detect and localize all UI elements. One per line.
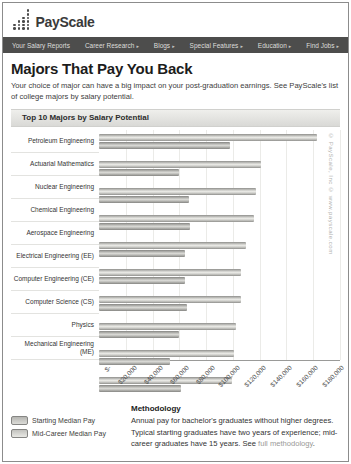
mid-career-pay-bar — [99, 161, 261, 168]
logo-dot — [27, 24, 30, 27]
category-label: Computer Engineering (CE) — [11, 268, 99, 291]
starting-pay-bar — [99, 304, 187, 311]
mid-career-pay-bar — [99, 188, 256, 195]
payscale-logo[interactable]: PayScale — [13, 10, 94, 30]
page-intro: Your choice of major can have a big impa… — [11, 81, 345, 102]
category-label: Electrical Engineering (EE) — [11, 245, 99, 268]
category-label: Chemical Engineering — [11, 199, 99, 222]
bar-row — [99, 296, 340, 319]
logo-dot — [18, 20, 21, 23]
copyright-watermark: © PayScale, Inc © www.payscale.com — [328, 133, 334, 255]
bar-row — [99, 188, 340, 211]
page-title: Majors That Pay You Back — [11, 60, 340, 77]
methodology-text: Annual pay for bachelor's graduates with… — [131, 415, 340, 449]
mid-career-pay-bar — [99, 134, 317, 141]
bar-row — [99, 323, 340, 346]
logo-dot — [27, 17, 30, 20]
payscale-logo-text: PayScale — [35, 14, 94, 30]
methodology-title: Methodology — [131, 404, 340, 413]
logo-dot-column — [13, 24, 16, 30]
logo-dot-column — [22, 17, 25, 30]
chevron-right-icon: ▸ — [240, 43, 243, 49]
category-label: Petroleum Engineering — [11, 130, 99, 153]
bar-row — [99, 134, 340, 157]
logo-dot — [27, 27, 30, 30]
mid-career-pay-bar — [99, 215, 254, 222]
bar-row — [99, 269, 340, 292]
nav-item-special-features[interactable]: Special Features▸ — [190, 42, 243, 49]
gridline — [340, 130, 341, 360]
salary-bar-chart: Petroleum EngineeringActuarial Mathemati… — [11, 130, 340, 361]
logo-dot — [22, 27, 25, 30]
mid-career-pay-bar — [99, 296, 241, 303]
legend-item: Mid-Career Median Pay — [11, 429, 121, 438]
methodology-period: . — [313, 439, 315, 448]
legend-item: Starting Median Pay — [11, 416, 121, 425]
starting-pay-bar — [99, 142, 230, 149]
category-label: Computer Science (CS) — [11, 291, 99, 314]
starting-pay-bar — [99, 196, 189, 203]
category-label: Actuarial Mathematics — [11, 153, 99, 176]
mid-career-pay-bar — [99, 269, 241, 276]
logo-dot — [13, 24, 16, 27]
mid-career-pay-bar — [99, 323, 236, 330]
chevron-right-icon: ▸ — [172, 43, 175, 49]
bar-row — [99, 161, 340, 184]
nav-item-blogs[interactable]: Blogs▸ — [154, 42, 175, 49]
payscale-logo-dots-icon — [13, 10, 29, 30]
legend-label: Starting Median Pay — [32, 417, 95, 424]
nav-item-career-research[interactable]: Career Research▸ — [85, 42, 139, 49]
starting-pay-bar — [99, 277, 185, 284]
x-axis: $-$20,000$40,000$60,000$80,000$100,000$1… — [107, 361, 340, 398]
starting-pay-bar — [99, 169, 179, 176]
full-methodology-link[interactable]: full methodology — [258, 439, 313, 448]
starting-pay-bar — [99, 223, 190, 230]
section-header: Top 10 Majors by Salary Potential — [11, 109, 340, 127]
category-label: Aerospace Engineering — [11, 222, 99, 245]
chart-footer: Starting Median PayMid-Career Median Pay… — [3, 404, 348, 449]
chart-legend: Starting Median PayMid-Career Median Pay — [11, 404, 121, 449]
category-label: Physics — [11, 314, 99, 337]
starting-pay-bar — [99, 250, 185, 257]
chevron-right-icon: ▸ — [336, 43, 339, 49]
chart-plot-area — [99, 130, 340, 361]
bar-row — [99, 215, 340, 238]
logo-dot — [22, 20, 25, 23]
nav-bar: Your Salary ReportsCareer Research▸Blogs… — [3, 37, 348, 53]
bar-row — [99, 242, 340, 265]
category-label: Nuclear Engineering — [11, 176, 99, 199]
starting-pay-bar — [99, 331, 179, 338]
chevron-right-icon: ▸ — [136, 43, 139, 49]
logo-dot — [13, 27, 16, 30]
category-label: Mechanical Engineering (ME) — [11, 337, 99, 360]
mid-career-pay-bar — [99, 242, 246, 249]
logo-dot-column — [18, 20, 21, 30]
nav-item-education[interactable]: Education▸ — [258, 42, 291, 49]
starting-pay-swatch-icon — [11, 416, 28, 425]
logo-dot — [22, 24, 25, 27]
header: PayScale — [3, 3, 348, 37]
logo-dot — [18, 24, 21, 27]
mid-career-pay-bar — [99, 350, 234, 357]
logo-dot — [18, 27, 21, 30]
logo-dot — [22, 17, 25, 20]
mid-career-pay-swatch-icon — [11, 429, 28, 438]
nav-item-your-salary-reports[interactable]: Your Salary Reports — [12, 42, 70, 49]
logo-dot — [27, 13, 30, 16]
category-labels: Petroleum EngineeringActuarial Mathemati… — [11, 130, 99, 361]
logo-dot — [27, 9, 30, 12]
nav-item-find-jobs[interactable]: Find Jobs▸ — [306, 42, 339, 49]
methodology: Methodology Annual pay for bachelor's gr… — [121, 404, 340, 449]
legend-label: Mid-Career Median Pay — [32, 430, 106, 437]
page-frame: PayScale Your Salary ReportsCareer Resea… — [2, 2, 349, 462]
logo-dot — [27, 20, 30, 23]
chevron-right-icon: ▸ — [289, 43, 292, 49]
logo-dot-column — [27, 9, 30, 30]
